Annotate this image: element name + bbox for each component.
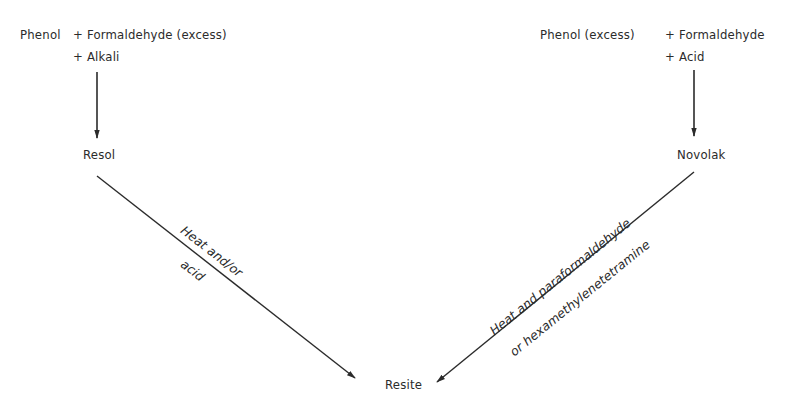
left-reactant-alkali: + Alkali — [73, 50, 120, 63]
left-reactant-formaldehyde-excess: + Formaldehyde (excess) — [73, 28, 227, 41]
right-reactant-phenol-excess: Phenol (excess) — [540, 28, 635, 41]
product-novolak: Novolak — [677, 148, 726, 161]
right-reactant-acid: + Acid — [665, 50, 705, 63]
product-resol: Resol — [83, 148, 115, 161]
left-reactant-phenol: Phenol — [20, 28, 61, 41]
arrow-resol-to-resite — [97, 176, 355, 378]
right-reactant-formaldehyde: + Formaldehyde — [665, 28, 765, 41]
product-resite: Resite — [385, 378, 422, 391]
